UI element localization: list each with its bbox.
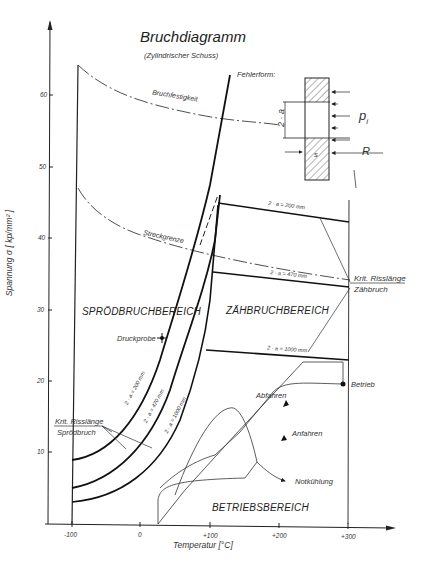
x-tick-0: 0 xyxy=(138,531,142,538)
line-a1000-ductile xyxy=(206,350,349,360)
anfahren-label: Anfahren xyxy=(292,429,322,438)
fehlerform-label: Fehlerform: xyxy=(237,70,275,79)
y-tick-30: 30 xyxy=(37,306,44,313)
x-axis xyxy=(45,521,396,531)
krit-risslaenge-left: Krit. Risslänge xyxy=(55,417,103,426)
notkuehlung-label: Notkühlung xyxy=(295,477,333,486)
anfahren-curve xyxy=(158,362,343,524)
diagram-title: Bruchdiagramm xyxy=(140,28,246,45)
zaehbruch-label: Zähbruch xyxy=(354,285,388,294)
boundary-plus-300 xyxy=(348,200,349,524)
fehlerform-inset xyxy=(283,78,383,188)
y-tick-10: 10 xyxy=(37,448,44,455)
y-tick-20: 20 xyxy=(37,377,44,384)
curve-a1000-brittle xyxy=(72,205,218,502)
sproedbruch-region-label: SPRÖDBRUCHBEREICH xyxy=(82,306,201,317)
betrieb-region-label: BETRIEBSBEREICH xyxy=(212,502,309,513)
y-tick-50: 50 xyxy=(39,163,46,170)
radius-label: R xyxy=(362,145,370,157)
betrieb-label: Betrieb xyxy=(351,380,375,389)
abfahren-label: Abfahren xyxy=(256,391,286,400)
krit-risslaenge-right: Krit. Risslänge xyxy=(354,274,406,283)
crack-length-label: 2 · a xyxy=(276,109,286,127)
betrieb-point xyxy=(341,382,346,387)
y-tick-60: 60 xyxy=(40,91,47,98)
y-tick-40: 40 xyxy=(38,234,45,241)
zaehbruch-region-label: ZÄHBRUCHBEREICH xyxy=(226,305,329,316)
x-tick-200: +200 xyxy=(272,532,287,539)
pressure-label: pi xyxy=(359,108,368,126)
x-tick-100: +100 xyxy=(203,532,218,539)
x-tick-300: +300 xyxy=(341,533,356,540)
y-axis-label: Spannung σ [ kp/mm² ] xyxy=(4,210,14,296)
diagram-subtitle: (Zylindrischer Schuss) xyxy=(144,51,218,60)
pressure-subscript: i xyxy=(366,117,368,126)
x-tick-minus-100: -100 xyxy=(64,531,77,538)
y-axis xyxy=(48,20,53,524)
boundary-minus-100 xyxy=(72,65,78,524)
streckgrenze-curve xyxy=(78,188,350,280)
x-axis-label: Temperatur [°C] xyxy=(173,540,233,550)
sproedbruch-label: Sprödbruch xyxy=(57,428,96,437)
druckprobe-label: Druckprobe xyxy=(117,334,156,343)
thickness-label: s xyxy=(314,150,318,159)
